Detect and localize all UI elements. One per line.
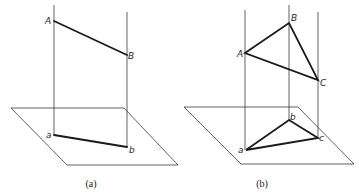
point-label-B: B — [291, 13, 297, 23]
triangle-ABC — [245, 23, 318, 80]
figure-b: A B C a b c (b) — [184, 5, 354, 190]
caption-a: (a) — [85, 178, 96, 190]
point-label-a: a — [46, 130, 52, 140]
figure-a: A B a b (a) — [11, 5, 178, 190]
point-label-B: B — [128, 51, 134, 61]
point-label-A: A — [44, 16, 51, 26]
point-label-b: b — [290, 112, 296, 122]
projection-plane-a — [11, 108, 178, 165]
segment-ab-projection — [54, 135, 127, 147]
point-label-A: A — [236, 49, 243, 59]
projection-diagram: A B a b (a) A B C a b c (b) — [0, 0, 359, 195]
caption-b: (b) — [256, 178, 268, 190]
triangle-abc-projection — [246, 120, 318, 150]
projection-plane-b — [184, 107, 354, 164]
point-label-b: b — [129, 145, 135, 155]
point-label-a: a — [238, 145, 244, 155]
point-label-C: C — [320, 78, 327, 88]
point-label-c: c — [319, 133, 324, 143]
segment-AB — [54, 21, 127, 55]
